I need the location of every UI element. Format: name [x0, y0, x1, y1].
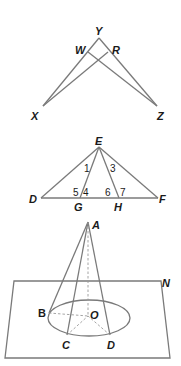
angle-5-label: 5 [73, 187, 79, 198]
figure-3-cone-on-plane: A B C D O N [5, 219, 171, 358]
label-O: O [90, 309, 99, 321]
angle-4-label: 4 [83, 187, 89, 198]
label-G: G [74, 201, 83, 213]
base-circle [48, 300, 130, 336]
segment-ED [41, 147, 99, 198]
label-F: F [159, 193, 166, 205]
segment-YZ [99, 38, 157, 106]
segment-AC [67, 222, 88, 335]
angle-1-label: 1 [84, 163, 90, 174]
label-C: C [62, 339, 71, 351]
figure-2-triangle-with-cevians: E D F G H 1 3 5 4 6 7 [29, 135, 166, 213]
label-N: N [162, 277, 171, 289]
label-H: H [114, 201, 123, 213]
angle-3-label: 3 [110, 163, 116, 174]
angle-7-label: 7 [120, 187, 126, 198]
figure-1-overlapping-triangles: Y W R X Z [30, 25, 165, 122]
segment-AB [49, 222, 88, 313]
segment-BO [49, 313, 88, 316]
segment-RX [43, 52, 108, 106]
segment-YX [43, 38, 99, 106]
plane-N [5, 281, 170, 358]
label-D-cone: D [107, 339, 115, 351]
label-X: X [30, 110, 39, 122]
label-R: R [112, 44, 120, 56]
angle-6-label: 6 [105, 187, 111, 198]
label-Y: Y [95, 25, 104, 37]
label-A: A [91, 219, 100, 231]
label-W: W [75, 44, 87, 56]
label-D: D [29, 193, 37, 205]
label-B: B [38, 307, 46, 319]
geometry-diagrams: Y W R X Z E D F G H 1 3 5 4 6 7 A B C [0, 0, 181, 366]
label-E: E [95, 135, 103, 147]
label-Z: Z [156, 110, 165, 122]
